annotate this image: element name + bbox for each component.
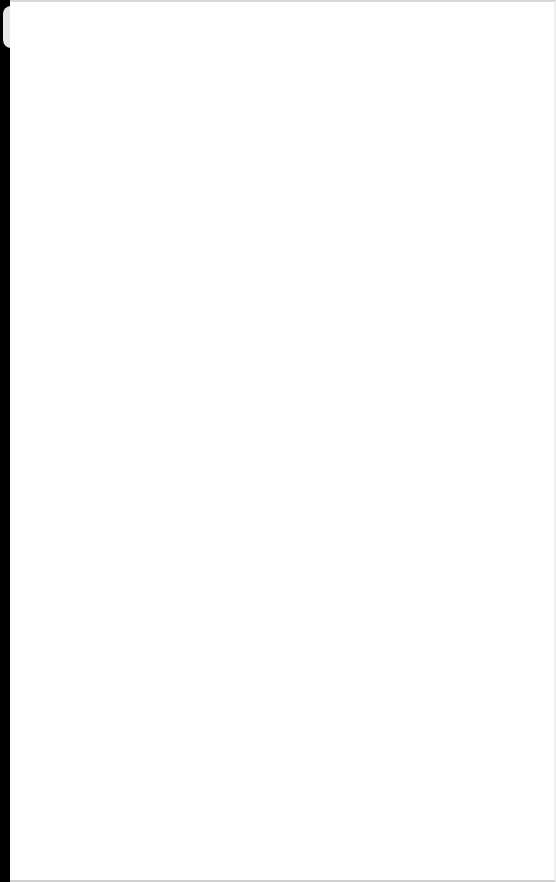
blank-content-area: [10, 0, 556, 882]
left-edge-strip: [0, 0, 10, 882]
